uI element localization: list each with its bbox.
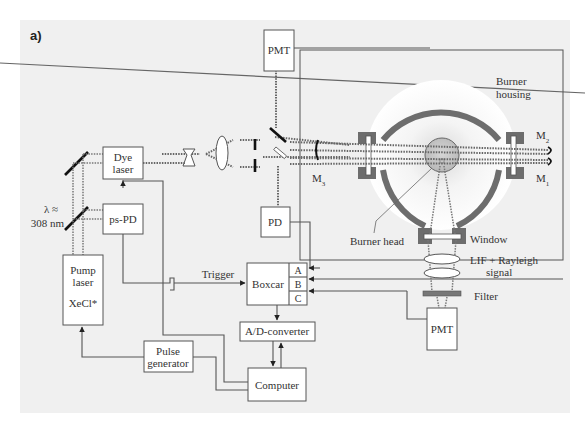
dye-laser-label-1: Dye [114, 151, 132, 163]
wavelength-label-2: 308 nm [31, 217, 65, 229]
burner-head [425, 138, 459, 172]
signal-label-1: LIF + Rayleigh [470, 254, 538, 266]
boxcar-channel-a: A [294, 265, 302, 276]
filter [423, 291, 461, 296]
boxcar-channel-c: C [295, 293, 302, 304]
trigger-label: Trigger [202, 268, 235, 280]
burner-head-label: Burner head [350, 235, 405, 247]
burner-housing-label-1: Burner [496, 75, 527, 87]
ps-pd-label: ps-PD [109, 213, 137, 225]
pump-laser-label-2: laser [73, 276, 94, 288]
filter-label: Filter [474, 290, 498, 302]
left-window [366, 136, 371, 175]
panel-label: a) [30, 28, 42, 43]
pulse-generator-label-1: Pulse [156, 345, 180, 357]
pump-laser-label-3: XeCl* [69, 297, 98, 309]
wavelength-label-1: λ ≈ [44, 203, 58, 215]
pulse-generator-label-2: generator [147, 357, 189, 369]
dye-laser-label-2: laser [113, 163, 134, 175]
computer-label: Computer [255, 379, 299, 391]
boxcar-label: Boxcar [252, 278, 284, 290]
boxcar-channel-b: B [295, 279, 302, 290]
pmt-bottom-label: PMT [431, 323, 454, 335]
collection-lens-2 [424, 268, 460, 278]
signal-label-2: signal [486, 266, 512, 278]
lif-rayleigh-setup-diagram: a) Burner housing Burner head [0, 0, 585, 425]
pump-laser-label-1: Pump [70, 264, 96, 276]
converging-lens [216, 136, 228, 170]
collection-lens-1 [424, 254, 460, 264]
ad-converter-label: A/D-converter [245, 325, 309, 337]
burner-housing-label-2: housing [496, 88, 531, 100]
pd-label: PD [268, 216, 282, 228]
pmt-top-label: PMT [268, 44, 291, 56]
bottom-window [424, 234, 461, 239]
window-label: Window [470, 233, 507, 245]
right-window [511, 136, 516, 175]
